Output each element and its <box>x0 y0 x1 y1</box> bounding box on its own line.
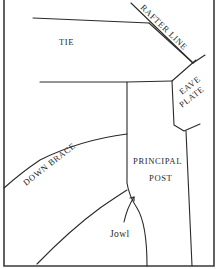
label-down-brace: DOWN BRACE <box>21 141 77 188</box>
timber-frame-diagram: TIE RAFTER LINE EAVE PLATE DOWN BRACE PR… <box>0 0 217 269</box>
rafter-end-tick <box>193 55 205 63</box>
label-principal: PRINCIPAL <box>133 156 182 166</box>
label-post: POST <box>149 173 173 183</box>
label-rafter-line: RAFTER LINE <box>139 2 190 52</box>
label-jowl: Jowl <box>110 229 130 239</box>
tie-top-line <box>33 18 149 23</box>
post-left-edge <box>127 82 147 266</box>
label-tie: TIE <box>59 37 74 47</box>
tie-bottom-line <box>40 81 172 82</box>
lower-brace-curve <box>37 190 127 264</box>
post-right-edge <box>186 131 192 266</box>
